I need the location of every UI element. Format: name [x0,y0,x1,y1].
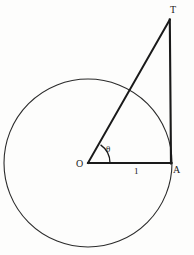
vertex-label-A: A [173,165,180,175]
tangent-line-AT [170,20,171,164]
angle-label-theta: θ [106,144,110,154]
geometry-figure: T A O θ 1 [0,0,194,255]
vertex-label-O: O [76,159,83,169]
radius-length-label: 1 [134,166,139,176]
vertex-label-T: T [170,5,176,15]
hypotenuse-line-OT [88,20,170,164]
geometry-canvas [0,0,194,255]
